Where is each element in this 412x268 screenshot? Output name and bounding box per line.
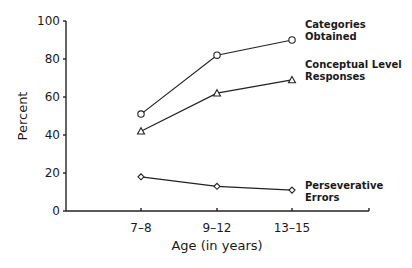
series-line bbox=[141, 80, 292, 131]
y-tick-label: 100 bbox=[37, 14, 60, 28]
diamond-marker-icon bbox=[214, 183, 220, 189]
x-tick-label: 7–8 bbox=[130, 221, 151, 235]
series-labels: CategoriesObtainedConceptual LevelRespon… bbox=[305, 19, 402, 203]
y-tick-label: 60 bbox=[45, 90, 60, 104]
axes: 0204060801007–89–1213–15Age (in years)Pe… bbox=[15, 14, 369, 253]
series-label: Obtained bbox=[305, 31, 357, 42]
series-label: Perseverative bbox=[305, 180, 383, 191]
circle-marker-icon bbox=[214, 52, 220, 58]
y-tick-label: 40 bbox=[45, 128, 60, 142]
x-tick-label: 9–12 bbox=[203, 221, 232, 235]
x-axis-title: Age (in years) bbox=[171, 238, 262, 253]
x-tick-label: 13–15 bbox=[274, 221, 311, 235]
series-line bbox=[141, 40, 292, 114]
series-group bbox=[138, 37, 296, 193]
series-label: Responses bbox=[305, 71, 365, 82]
triangle-marker-icon bbox=[138, 128, 145, 134]
circle-marker-icon bbox=[289, 37, 295, 43]
line-chart: 0204060801007–89–1213–15Age (in years)Pe… bbox=[0, 0, 412, 268]
diamond-marker-icon bbox=[138, 174, 144, 180]
y-axis-title: Percent bbox=[15, 92, 30, 141]
series-label: Errors bbox=[305, 192, 339, 203]
triangle-marker-icon bbox=[289, 76, 296, 82]
series-label: Conceptual Level bbox=[305, 59, 402, 70]
y-tick-label: 80 bbox=[45, 52, 60, 66]
diamond-marker-icon bbox=[289, 187, 295, 193]
circle-marker-icon bbox=[138, 111, 144, 117]
series-label: Categories bbox=[305, 19, 366, 30]
y-tick-label: 0 bbox=[52, 204, 60, 218]
y-tick-label: 20 bbox=[45, 166, 60, 180]
